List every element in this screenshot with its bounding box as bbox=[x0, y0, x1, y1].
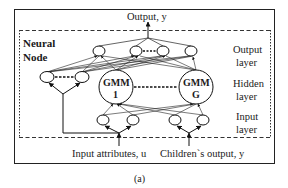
input-layer-label-2: layer bbox=[236, 124, 257, 136]
hidden-layer-label-1: Hidden bbox=[233, 78, 264, 90]
input-to-gmm-lines bbox=[103, 104, 203, 115]
figure-caption: (a) bbox=[134, 173, 145, 184]
neural-node-title-line1: Neural bbox=[23, 36, 55, 50]
neural-node-title-line2: Node bbox=[23, 50, 47, 64]
input-attributes-label: Input attributes, u bbox=[72, 148, 146, 160]
output-y-label: Output, y bbox=[127, 11, 167, 23]
hidden-to-output-lines bbox=[47, 56, 196, 72]
gmm-1-label-line2: 1 bbox=[113, 88, 118, 102]
output-layer-label-2: layer bbox=[236, 57, 257, 69]
output-to-apex-lines bbox=[99, 38, 191, 46]
bottom-input-arrows bbox=[105, 126, 201, 146]
gmm-g-label-line2: G bbox=[192, 88, 200, 102]
input-layer-label-1: Input bbox=[236, 111, 258, 123]
output-layer-label-1: Output bbox=[233, 44, 262, 56]
hidden-layer-label-2: layer bbox=[236, 91, 257, 103]
input-layer-nodes bbox=[97, 115, 209, 125]
childrens-output-label: Children`s output, y bbox=[160, 148, 244, 160]
